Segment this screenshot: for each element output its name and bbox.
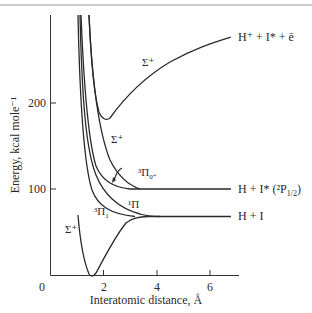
label-sigma-ionic: Σ⁺ <box>142 56 154 68</box>
label-pi0: ³Π0⁺ <box>138 166 157 181</box>
label-sigma-repulsive: Σ⁺ <box>111 133 123 145</box>
potential-energy-diagram: 200 100 0 2 4 6 Interatomic distance, Å … <box>0 0 312 313</box>
ytick-label-100: 100 <box>28 182 46 196</box>
label-pi1: ³Π1 <box>94 205 109 220</box>
label-excited-asymptote: H + I* (²P1/2) <box>238 182 301 198</box>
curve-ionic-sigma <box>89 15 231 119</box>
xtick-label-6: 6 <box>207 280 213 294</box>
label-pi0-main: ³Π <box>138 166 149 178</box>
label-sigma-ground: Σ⁺ <box>65 223 77 235</box>
label-pi1-sub: 1 <box>105 212 109 220</box>
y-axis-title: Energy, kcal mole⁻¹ <box>8 96 22 193</box>
label-excited-sub: 1/2 <box>287 189 297 198</box>
curve-pi1 <box>78 15 135 217</box>
label-pi-singlet: ¹Π <box>128 198 139 210</box>
curve-ground-sigma <box>78 215 231 276</box>
label-pi1-main: ³Π <box>94 205 105 217</box>
curve-pi-singlet <box>80 15 160 217</box>
curve-repulsive-sigma <box>89 15 231 189</box>
xtick-label-2: 2 <box>101 280 107 294</box>
x-axis-title: Interatomic distance, Å <box>90 293 203 307</box>
label-ground-asymptote: H + I <box>238 209 263 223</box>
label-excited-main: H + I* (²P <box>238 182 287 196</box>
xtick-label-4: 4 <box>154 280 160 294</box>
xtick-label-0: 0 <box>39 280 45 294</box>
label-excited-close: ) <box>297 182 301 196</box>
label-ion-asymptote: H⁺ + I* + ē <box>238 30 294 44</box>
label-pi0-sub: 0⁺ <box>149 173 157 181</box>
ytick-label-200: 200 <box>28 96 46 110</box>
